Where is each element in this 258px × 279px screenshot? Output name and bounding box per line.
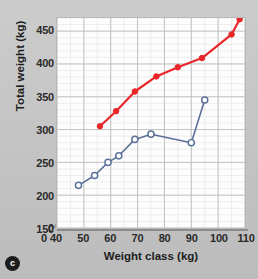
y-tick-label: 450 xyxy=(2,24,54,36)
x-tick-label: 110 xyxy=(237,232,254,244)
y-tick-label: 250 xyxy=(2,157,54,169)
x-tick-label: 90 xyxy=(186,232,198,244)
y-tick-label: 300 xyxy=(2,124,54,136)
plot-area xyxy=(56,17,246,229)
data-point xyxy=(202,97,208,103)
data-point xyxy=(229,32,235,38)
data-point xyxy=(105,159,111,165)
data-point xyxy=(113,108,119,114)
data-point xyxy=(92,172,98,178)
figure-container: Total weight (kg) 0150200250300350400450… xyxy=(0,0,258,279)
data-point xyxy=(116,153,122,159)
x-tick-label: 0 xyxy=(41,232,47,244)
x-axis-line xyxy=(58,229,248,231)
y-tick-label: 400 xyxy=(2,57,54,69)
x-axis-tick-labels: 0405060708090100110 xyxy=(0,232,258,248)
data-point xyxy=(132,89,138,95)
chart-series-layer xyxy=(57,18,245,228)
x-tick-label: 80 xyxy=(159,232,171,244)
series-line xyxy=(100,19,240,126)
data-point xyxy=(75,182,81,188)
x-tick-label: 70 xyxy=(132,232,144,244)
data-point xyxy=(188,140,194,146)
data-point xyxy=(132,136,138,142)
y-tick-label: 200 xyxy=(2,190,54,202)
series-upper-series xyxy=(97,18,242,129)
figure-panel-label: c xyxy=(5,256,20,271)
series-line xyxy=(78,100,204,185)
x-tick-label: 60 xyxy=(104,232,116,244)
data-point xyxy=(148,131,154,137)
data-point xyxy=(237,18,243,22)
series-lower-series xyxy=(75,97,207,188)
data-point xyxy=(175,64,181,70)
data-point xyxy=(97,124,103,130)
data-point xyxy=(154,74,160,80)
x-tick-label: 100 xyxy=(210,232,228,244)
x-tick-label: 50 xyxy=(77,232,89,244)
x-axis-title: Weight class (kg) xyxy=(56,250,246,262)
y-tick-label: 350 xyxy=(2,91,54,103)
data-point xyxy=(199,55,205,61)
x-tick-label: 40 xyxy=(50,232,62,244)
